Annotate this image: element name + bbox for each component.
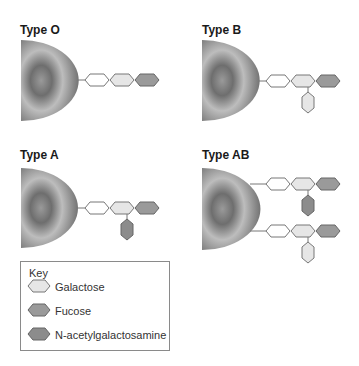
key-title: Key [29,267,48,279]
key-legend: Key Galactose Fucose N-acetylgalactosami… [20,261,170,351]
type-o-cell [21,40,159,121]
type-a-cell [21,168,159,248]
key-label-fucose: Fucose [55,305,91,317]
key-label-galactose: Galactose [55,281,105,293]
key-label-n-acetylgalactosamine: N-acetylgalactosamine [55,329,166,341]
type-b-cell [202,40,340,121]
type-ab-cell [202,168,340,263]
